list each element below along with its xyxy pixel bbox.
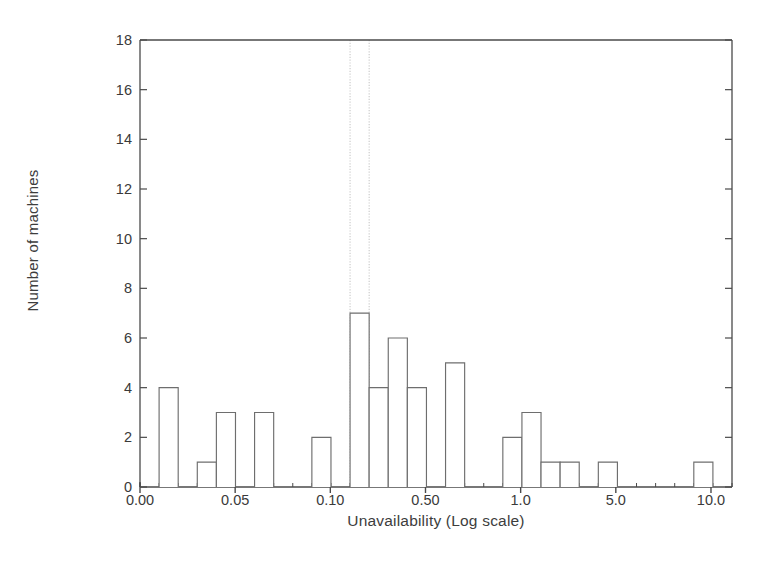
- histogram-bar: [369, 388, 388, 487]
- histogram-bar: [694, 462, 713, 487]
- histogram-bar: [216, 413, 235, 488]
- histogram-bar-outline: [197, 462, 216, 487]
- histogram-bar-outline: [560, 462, 579, 487]
- histogram-bar: [560, 462, 579, 487]
- histogram-figure: Number of machines 024681012141618 0.000…: [0, 0, 769, 562]
- histogram-bar-outline: [522, 413, 541, 488]
- histogram-bar-outline: [388, 338, 407, 487]
- histogram-bar: [407, 388, 426, 487]
- histogram-bar: [255, 413, 274, 488]
- histogram-bar: [197, 462, 216, 487]
- histogram-bar: [159, 388, 178, 487]
- histogram-bar-outline: [159, 388, 178, 487]
- histogram-bar: [312, 437, 331, 487]
- histogram-bar-outline: [598, 462, 617, 487]
- histogram-bar: [598, 462, 617, 487]
- histogram-bar: [541, 462, 560, 487]
- plot-area: [0, 0, 769, 562]
- histogram-bar-outline: [369, 388, 388, 487]
- histogram-bar-outline: [446, 363, 465, 487]
- histogram-bar: [503, 437, 522, 487]
- histogram-bar: [522, 413, 541, 488]
- histogram-bar-outline: [350, 313, 369, 487]
- histogram-bar-outline: [312, 437, 331, 487]
- histogram-bar-outline: [216, 413, 235, 488]
- histogram-bar-outline: [541, 462, 560, 487]
- histogram-bar: [350, 313, 369, 487]
- histogram-bar: [388, 338, 407, 487]
- histogram-bar-outline: [694, 462, 713, 487]
- histogram-bar-outline: [255, 413, 274, 488]
- histogram-bar-outline: [503, 437, 522, 487]
- histogram-bar-outline: [407, 388, 426, 487]
- histogram-bar: [446, 363, 465, 487]
